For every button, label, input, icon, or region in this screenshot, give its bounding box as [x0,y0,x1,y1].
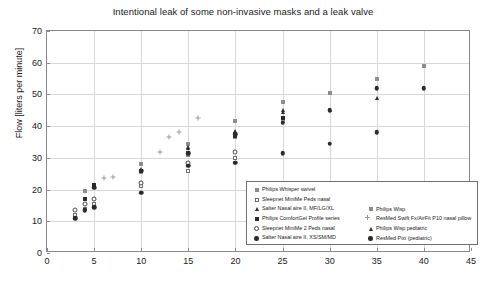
legend-marker-icon [251,234,262,243]
data-point [82,208,87,213]
data-point [186,169,190,173]
data-point [375,96,379,100]
legend-item[interactable]: Salter Nasal aire II, XS/SM/MD [251,233,365,243]
data-point [233,156,237,160]
legend-item[interactable]: Philips Wisp [365,205,475,215]
legend-column: Philips Whisper swivelSleepnet MiniMe Pe… [251,185,365,242]
legend-item-label: ResMed Pixi (pediatric) [376,234,432,244]
legend-marker-icon [251,205,262,214]
x-tick-mark [47,248,48,251]
legend-item-label: Philips Wisp pediatric [376,224,427,234]
data-point [73,208,78,213]
legend-item[interactable]: Salter Nasal aire II, MF/LG/XL [251,204,365,214]
legend-marker-icon [365,224,376,233]
data-point [186,151,191,156]
y-tick-label: 10 [32,216,42,226]
data-point [375,77,379,81]
y-axis-label: Flow [liters per minute] [14,28,24,158]
legend-item-label: Philips Wisp [376,205,405,215]
x-tick-label: 40 [419,256,429,266]
data-point [110,174,115,179]
x-tick-mark [94,248,95,251]
y-tick-mark [47,126,50,127]
x-tick-mark [188,248,189,251]
legend-item[interactable]: Philips Whisper swivel [251,185,365,195]
data-point [422,64,426,68]
x-tick-label: 35 [372,256,382,266]
legend-marker-icon [365,234,376,243]
data-point [281,108,285,112]
data-point [233,132,238,137]
y-tick-mark [47,63,50,64]
data-point [422,86,427,91]
data-point [139,181,144,186]
y-tick-label: 0 [37,248,42,258]
chart-root: Intentional leak of some non-invasive ma… [0,0,486,284]
data-point [327,108,332,113]
legend-marker-icon [251,224,262,233]
y-tick-mark [47,190,50,191]
data-point [195,116,200,121]
legend-item[interactable]: Sleepnet MiniMe 2 Peds nasal [251,224,365,234]
y-tick-label: 50 [32,89,42,99]
data-point [101,176,106,181]
data-point [73,216,78,221]
x-tick-mark [424,248,425,251]
legend-item[interactable]: Sleepnet MiniMe Peds nasal [251,195,365,205]
x-tick-label: 30 [325,256,335,266]
legend-marker-icon [251,214,262,223]
legend-marker-icon [365,205,376,214]
x-tick-label: 45 [466,256,476,266]
data-point [375,130,380,135]
grid-line-horizontal [47,126,469,127]
legend-item-label: Salter Nasal aire II, XS/SM/MD [262,233,336,243]
data-point [92,186,97,191]
legend-item[interactable]: ResMed Swift Fx/AirFit P10 nasal pillow [365,214,475,224]
data-point [92,205,97,210]
legend-item-label: Philips Whisper swivel [262,185,315,195]
legend-item-label: ResMed Swift Fx/AirFit P10 nasal pillow [376,214,471,224]
x-tick-mark [377,248,378,251]
data-point [281,116,285,120]
data-point [233,119,237,123]
data-point [280,121,285,126]
x-tick-label: 5 [92,256,97,266]
grid-line-vertical [141,31,142,251]
data-point [328,91,332,95]
legend-item[interactable]: ResMed Pixi (pediatric) [365,234,475,244]
data-point [375,86,380,91]
x-tick-label: 0 [44,256,49,266]
legend-item-label: Sleepnet MiniMe 2 Peds nasal [262,224,335,234]
x-tick-mark [235,248,236,251]
x-tick-mark [283,248,284,251]
data-point [176,130,181,135]
chart-legend: Philips Whisper swivelSleepnet MiniMe Pe… [246,181,478,245]
data-point [83,189,87,193]
data-point [82,201,87,206]
legend-item[interactable]: Philips Wisp pediatric [365,224,475,234]
data-point [280,151,285,156]
x-tick-label: 15 [183,256,193,266]
legend-item[interactable]: Philips ComfortGel Profile series [251,214,365,224]
y-tick-mark [47,253,50,254]
legend-item-label: Salter Nasal aire II, MF/LG/XL [262,204,334,214]
legend-item-label: Sleepnet MiniMe Peds nasal [262,195,330,205]
data-point [139,168,144,173]
data-point [158,149,163,154]
legend-item-label: Philips ComfortGel Profile series [262,214,340,224]
data-point [92,197,97,202]
data-point [327,141,332,146]
chart-title: Intentional leak of some non-invasive ma… [0,6,486,17]
data-point [139,190,144,195]
y-tick-label: 30 [32,153,42,163]
data-point [139,162,143,166]
data-point [233,160,238,165]
grid-line-vertical [235,31,236,251]
legend-marker-icon [251,185,262,194]
legend-column: Philips WispResMed Swift Fx/AirFit P10 n… [365,185,475,242]
grid-line-horizontal [47,94,469,95]
y-tick-label: 20 [32,185,42,195]
data-point [281,100,285,104]
legend-marker-icon [365,215,376,224]
y-tick-label: 70 [32,26,42,36]
